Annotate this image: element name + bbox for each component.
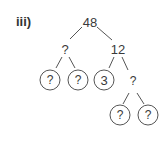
node-rr: ? — [130, 74, 137, 88]
edge-left-ll — [56, 57, 62, 68]
node-right: 12 — [111, 42, 125, 57]
node-rrl: ? — [117, 108, 124, 122]
node-rl: 3 — [100, 73, 107, 88]
edge-rr-rrr — [137, 93, 144, 104]
factor-tree: 48 ? 12 ? ? 3 ? ? ? — [0, 0, 166, 156]
node-left: ? — [61, 42, 68, 57]
edge-root-right — [97, 27, 112, 40]
node-ll: ? — [47, 73, 54, 87]
edge-left-lr — [69, 57, 75, 68]
edge-right-rr — [122, 57, 128, 70]
node-root: 48 — [83, 15, 97, 30]
edge-root-left — [70, 27, 82, 39]
edge-right-rl — [109, 57, 114, 68]
node-rrr: ? — [145, 108, 152, 122]
node-lr: ? — [75, 73, 82, 87]
edge-rr-rrl — [123, 93, 129, 104]
